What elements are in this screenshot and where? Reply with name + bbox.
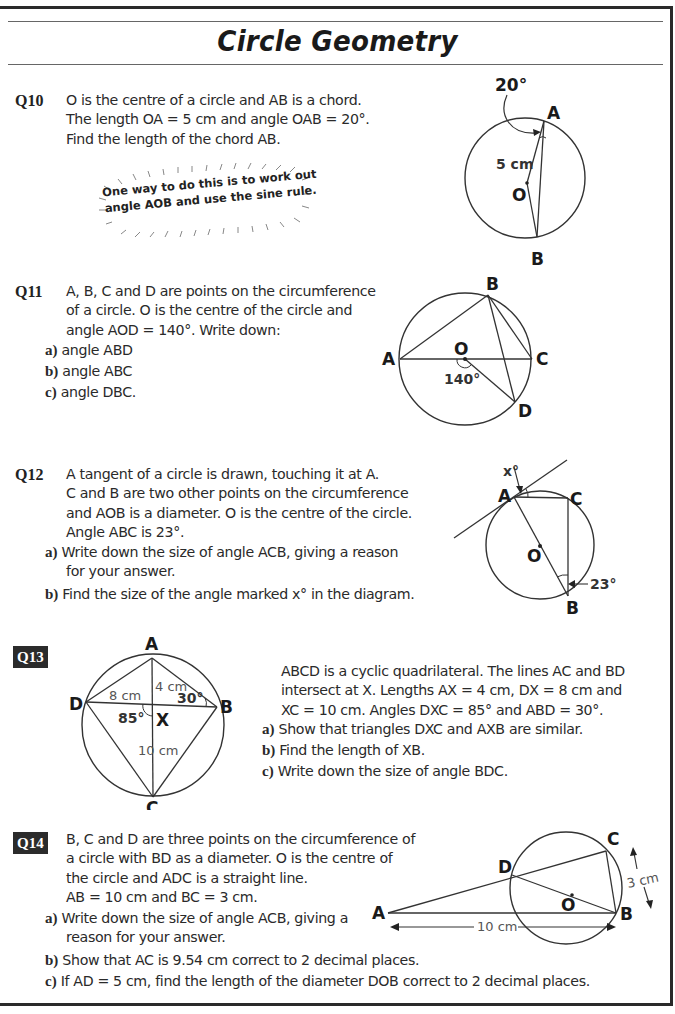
part-text: angle ABC (62, 363, 132, 379)
part-c: c)angle DBC. (45, 383, 136, 402)
part-label: a) (45, 342, 58, 358)
text-line: the circle and ADC is a straight line. (66, 869, 415, 888)
label-xc: 10 cm (138, 743, 179, 758)
part-a: a)angle ABD (45, 341, 133, 360)
q13-diagram: A B C D X 4 cm 8 cm 10 cm 85° 30° (65, 630, 265, 810)
label-b: B (566, 598, 579, 618)
label-d: D (498, 857, 512, 877)
part-text: Write down the size of angle BDC. (278, 763, 508, 779)
part-a: a)Write down the size of angle ACB, givi… (45, 543, 398, 582)
text-line: O is the centre of a circle and AB is a … (66, 91, 369, 110)
part-c: c)If AD = 5 cm, find the length of the d… (45, 972, 590, 991)
arrowhead-down (646, 900, 653, 909)
part-text: angle DBC. (61, 384, 136, 400)
text-line: and AOB is a diameter. O is the centre o… (66, 504, 412, 523)
label-d: D (518, 401, 532, 421)
part-c: c)Write down the size of angle BDC. (262, 762, 508, 781)
arrowhead-up (630, 847, 637, 856)
label-o: O (527, 546, 541, 566)
label-angle: 20° (495, 75, 527, 95)
label-a: A (145, 634, 159, 654)
part-label: c) (45, 973, 57, 989)
label-dx: 8 cm (109, 688, 141, 703)
label-a: A (498, 486, 512, 506)
label-bc: 3 cm (626, 870, 661, 891)
text-line: of a circle. O is the centre of the circ… (66, 301, 376, 320)
part-b: b)Find the size of the angle marked x° i… (45, 585, 414, 604)
question-number: Q11 (15, 283, 43, 301)
part-label: a) (45, 544, 58, 560)
part-a: a)Write down the size of angle ACB, givi… (45, 909, 348, 948)
text-line: XC = 10 cm. Angles DXC = 85° and ABD = 3… (281, 701, 625, 720)
label-a: A (382, 349, 396, 369)
part-text: Write down the size of angle ACB, giving… (62, 544, 399, 560)
label-b: B (220, 697, 233, 717)
label-a: A (547, 103, 561, 123)
label-angle-abd: 30° (177, 690, 203, 706)
part-text: Show that AC is 9.54 cm correct to 2 dec… (62, 952, 419, 968)
part-text: reason for your answer. (66, 929, 225, 945)
text-line: intersect at X. Lengths AX = 4 cm, DX = … (281, 681, 625, 700)
text-line: C and B are two other points on the circ… (66, 484, 412, 503)
part-label: a) (45, 910, 58, 926)
text-line: The length OA = 5 cm and angle OAB = 20°… (66, 110, 369, 129)
title-rule-bottom (8, 64, 663, 65)
q12-diagram: x° A C O B 23° (440, 450, 640, 620)
part-b: b)Show that AC is 9.54 cm correct to 2 d… (45, 951, 419, 970)
text-line: Find the length of the chord AB. (66, 130, 369, 149)
question-number: Q12 (15, 466, 43, 484)
label-c: C (607, 829, 619, 849)
chord-bc (488, 295, 532, 359)
part-label: b) (45, 363, 58, 379)
label-o: O (512, 185, 526, 205)
radius-ob (527, 183, 537, 237)
label-x: x° (503, 463, 519, 479)
question-text: A, B, C and D are points on the circumfe… (66, 282, 376, 340)
part-a: a)Show that triangles DXC and AXB are si… (262, 720, 583, 739)
part-text: If AD = 5 cm, find the length of the dia… (61, 973, 590, 989)
part-text: Find the size of the angle marked x° in … (62, 586, 414, 602)
label-b: B (531, 249, 544, 269)
diagonal-ac (152, 658, 153, 797)
question-text: ABCD is a cyclic quadrilateral. The line… (281, 662, 625, 720)
arrowhead-left (390, 923, 399, 931)
part-label: b) (45, 952, 58, 968)
arrowhead (568, 580, 575, 588)
label-c: C (536, 349, 548, 369)
label-o: O (561, 895, 575, 915)
title-rule-top (8, 21, 663, 22)
label-c: C (146, 798, 158, 810)
text-line: B, C and D are three points on the circu… (66, 830, 415, 849)
chord-ab (537, 121, 544, 237)
dimension-bc-up (634, 853, 637, 869)
label-o: O (454, 339, 468, 359)
label-c: C (570, 489, 582, 509)
part-text: Write down the size of angle ACB, giving… (62, 910, 349, 926)
question-text: O is the centre of a circle and AB is a … (66, 91, 369, 149)
label-a: A (372, 903, 386, 923)
text-line: AB = 10 cm and BC = 3 cm. (66, 888, 415, 907)
label-angle: 23° (590, 576, 616, 592)
q10-diagram: 20° A B O 5 cm (440, 75, 590, 275)
question-number-badge: Q13 (13, 646, 48, 668)
part-text: for your answer. (66, 563, 175, 579)
arrowhead-right (607, 923, 616, 931)
label-b: B (620, 904, 633, 924)
chord-ab (400, 295, 488, 359)
angle-23-arc (557, 575, 568, 577)
text-line: angle AOD = 140°. Write down: (66, 321, 376, 340)
text-line: A, B, C and D are points on the circumfe… (66, 282, 376, 301)
label-angle-dxc: 85° (118, 710, 144, 726)
q14-diagram: A B C D O 10 cm 3 cm (370, 825, 670, 955)
part-label: c) (262, 763, 274, 779)
question-number-badge: Q14 (13, 832, 48, 854)
label-d: D (69, 694, 83, 714)
label-b: B (486, 274, 499, 294)
label-ab: 10 cm (477, 919, 518, 934)
question-text: A tangent of a circle is drawn, touching… (66, 465, 412, 543)
question-text: B, C and D are three points on the circu… (66, 830, 415, 908)
part-b: b)Find the length of XB. (262, 741, 425, 760)
label-x: X (156, 710, 169, 730)
text-line: ABCD is a cyclic quadrilateral. The line… (281, 662, 625, 681)
part-text: angle ABD (62, 342, 133, 358)
